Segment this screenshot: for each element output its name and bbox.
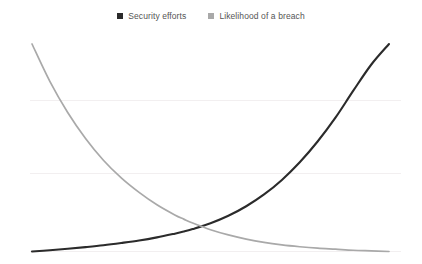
series-lines bbox=[32, 44, 389, 252]
gridlines bbox=[30, 101, 401, 252]
line-likelihood-of-a-breach bbox=[32, 44, 389, 252]
chart-container: Security efforts Likelihood of a breach bbox=[0, 0, 422, 264]
plot-area bbox=[0, 0, 422, 264]
line-security-efforts bbox=[32, 44, 389, 252]
